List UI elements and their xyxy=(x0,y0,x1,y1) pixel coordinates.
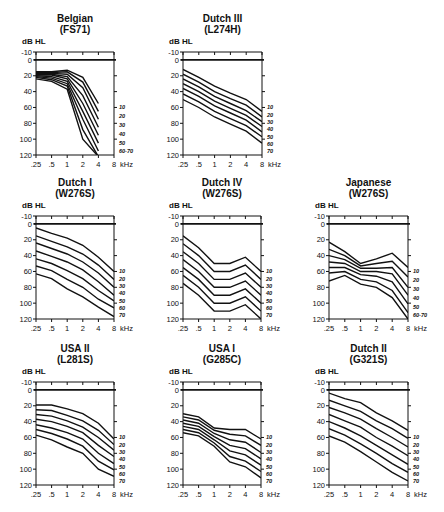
percentile-label: 10 xyxy=(119,268,125,274)
x-tick-label: 1 xyxy=(213,160,217,169)
panel-title: Japanese xyxy=(346,177,392,188)
y-tick-label: 80 xyxy=(171,449,179,458)
x-unit-label: kHz xyxy=(267,490,280,499)
y-tick-label: 40 xyxy=(317,251,325,260)
panel-title: Belgian xyxy=(57,13,93,24)
audiogram-curve xyxy=(183,100,262,144)
percentile-label: 70 xyxy=(266,312,272,318)
y-tick-label: 100 xyxy=(166,299,179,308)
y-tick-label: 40 xyxy=(171,87,179,96)
percentile-label: 40 xyxy=(118,456,125,462)
percentile-label: 20 xyxy=(265,276,272,282)
x-tick-label: 1 xyxy=(65,324,69,333)
panel-title: Dutch II xyxy=(350,343,387,354)
percentile-label: 40 xyxy=(118,290,125,296)
audiogram-panel: Dutch II(G321S)dB HL-10020406080100120.2… xyxy=(312,343,427,499)
audiogram-grid: Belgian(FS71)dB HL-10020406080100120.25.… xyxy=(0,0,444,512)
audiogram-curve xyxy=(329,422,408,465)
percentile-label: 40 xyxy=(265,456,272,462)
y-axis-label: dB HL xyxy=(315,201,339,210)
panel-title: Dutch I xyxy=(58,177,92,188)
audiogram-curve xyxy=(183,420,261,453)
percentile-label: 50 xyxy=(119,464,125,470)
x-tick-label: .25 xyxy=(178,490,188,499)
percentile-label: 20 xyxy=(266,112,273,118)
x-tick-label: .25 xyxy=(31,160,41,169)
percentile-label: 20 xyxy=(265,442,272,448)
panel-subtitle: (L274H) xyxy=(204,24,241,35)
x-unit-label: kHz xyxy=(267,324,280,333)
audiogram-panel: Belgian(FS71)dB HL-10020406080100120.25.… xyxy=(19,13,133,169)
y-tick-label: 120 xyxy=(312,315,325,324)
percentile-label: 60 xyxy=(266,471,272,477)
percentile-label: 10 xyxy=(267,104,273,110)
x-tick-label: .25 xyxy=(324,490,334,499)
audiogram-panel: Japanese(W276S)dB HL-10020406080100120.2… xyxy=(312,177,427,333)
y-tick-label: 40 xyxy=(171,417,179,426)
audiogram-curve xyxy=(36,419,114,456)
x-tick-label: 2 xyxy=(228,160,232,169)
y-tick-label: 100 xyxy=(19,135,32,144)
x-tick-label: 2 xyxy=(81,490,85,499)
percentile-label: 60-70 xyxy=(413,312,427,318)
y-tick-label: 60 xyxy=(171,433,179,442)
y-tick-label: 40 xyxy=(24,251,32,260)
y-tick-label: 20 xyxy=(171,401,179,410)
x-tick-label: 4 xyxy=(96,324,100,333)
percentile-label: 20 xyxy=(118,442,125,448)
audiogram-curve xyxy=(36,259,114,301)
audiogram-curve xyxy=(36,274,114,317)
x-tick-label: .25 xyxy=(324,324,334,333)
x-tick-label: 8 xyxy=(406,490,410,499)
x-tick-label: 1 xyxy=(65,160,69,169)
y-tick-label: 0 xyxy=(28,220,32,229)
audiogram-curve xyxy=(36,266,114,308)
audiogram-curve xyxy=(329,436,408,481)
x-tick-label: .25 xyxy=(178,160,188,169)
x-tick-label: 8 xyxy=(406,324,410,333)
x-tick-label: 1 xyxy=(212,324,216,333)
audiogram-panel: Dutch IV(W276S)dB HL-10020406080100120.2… xyxy=(166,177,280,333)
percentile-label: 60 xyxy=(119,305,125,311)
y-tick-label: 40 xyxy=(317,417,325,426)
y-tick-label: 0 xyxy=(28,56,32,65)
y-tick-label: 60 xyxy=(317,433,325,442)
y-tick-label: 100 xyxy=(166,135,179,144)
y-tick-label: 0 xyxy=(175,386,179,395)
x-unit-label: kHz xyxy=(120,324,133,333)
x-tick-label: 2 xyxy=(81,160,85,169)
x-unit-label: kHz xyxy=(120,160,133,169)
y-axis-label: dB HL xyxy=(169,201,193,210)
percentile-label: 50 xyxy=(119,298,125,304)
percentile-label: 30 xyxy=(413,449,419,455)
y-tick-label: 100 xyxy=(19,299,32,308)
x-unit-label: kHz xyxy=(414,490,427,499)
panel-subtitle: (L281S) xyxy=(57,354,93,365)
y-tick-label: 120 xyxy=(312,481,325,490)
y-tick-label: 100 xyxy=(312,299,325,308)
audiogram-curve xyxy=(183,74,262,117)
x-tick-label: 1 xyxy=(65,490,69,499)
panel-subtitle: (W276S) xyxy=(349,188,388,199)
x-tick-label: 1 xyxy=(359,490,363,499)
percentile-label: 30 xyxy=(267,119,273,125)
percentile-label: 60 xyxy=(413,471,419,477)
x-tick-label: .5 xyxy=(196,160,202,169)
audiogram-panel: USA II(L281S)dB HL-10020406080100120.25.… xyxy=(19,343,133,499)
percentile-label: 50 xyxy=(266,464,272,470)
percentile-label: 20 xyxy=(118,276,125,282)
percentile-label: 40 xyxy=(265,290,272,296)
panel-subtitle: (G321S) xyxy=(350,354,388,365)
percentile-label: 30 xyxy=(266,283,272,289)
x-tick-label: .5 xyxy=(195,324,201,333)
percentile-label: 10 xyxy=(413,268,419,274)
y-tick-label: 120 xyxy=(19,315,32,324)
x-tick-label: .25 xyxy=(31,324,41,333)
audiogram-curve xyxy=(36,425,114,464)
x-tick-label: 2 xyxy=(81,324,85,333)
y-axis-label: dB HL xyxy=(169,367,193,376)
x-tick-label: 1 xyxy=(212,490,216,499)
audiogram-curve xyxy=(329,429,408,473)
percentile-label: 70 xyxy=(413,478,419,484)
y-tick-label: 100 xyxy=(19,465,32,474)
